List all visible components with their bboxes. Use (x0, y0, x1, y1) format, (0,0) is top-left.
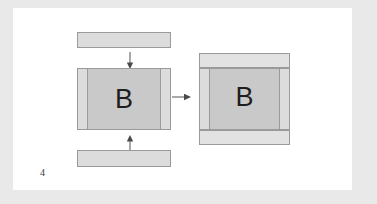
figure-number-label: 4 (40, 168, 45, 178)
arrow-right-icon (172, 92, 192, 102)
left-assembly-bottom-bar (77, 150, 171, 167)
right-assembly-label-b: B (209, 84, 280, 111)
left-assembly-label-b: B (77, 86, 171, 113)
page-sheet: B B (13, 8, 352, 190)
right-assembly-top-bar (199, 53, 290, 68)
right-assembly-bottom-bar (199, 130, 290, 145)
right-assembly-right-side-panel (279, 68, 290, 130)
figure-diagram: B B (13, 8, 352, 190)
left-assembly-top-bar (77, 32, 171, 48)
